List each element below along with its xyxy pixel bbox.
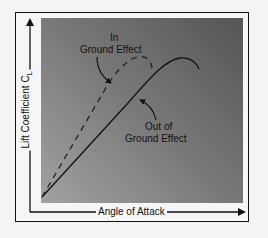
in-ground-effect-curve (42, 57, 152, 197)
out-of-ground-effect-label-line1: Out of (145, 121, 172, 133)
out-of-ground-effect-pointer (140, 100, 156, 120)
y-axis-label: Lift Coefficient CL (20, 69, 33, 150)
out-of-ground-effect-curve (42, 58, 199, 197)
x-axis-label: Angle of Attack (96, 206, 167, 217)
in-ground-effect-label-line2: Ground Effect (80, 44, 142, 56)
in-ground-effect-pointer (97, 57, 111, 83)
chart-lines (0, 0, 268, 238)
out-of-ground-effect-label-line2: Ground Effect (125, 133, 187, 145)
in-ground-effect-label-line1: In (110, 32, 118, 44)
